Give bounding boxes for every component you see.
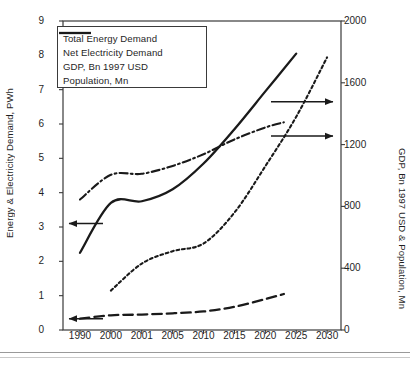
- footer-rule: [0, 352, 410, 353]
- chart-figure: Energy & Electricity Demand, PWh GDP, Bn…: [0, 0, 410, 370]
- legend-item-population: Population, Mn: [63, 73, 201, 87]
- legend-label: Net Electricity Demand: [63, 47, 163, 58]
- legend-item-net-electricity-demand: Net Electricity Demand: [63, 45, 201, 59]
- legend-label: Population, Mn: [63, 75, 128, 86]
- legend-key-long-dash-icon: [58, 27, 92, 39]
- series-line-net-electricity-demand: [80, 122, 284, 199]
- legend-label: GDP, Bn 1997 USD: [63, 61, 148, 72]
- legend-item-gdp: GDP, Bn 1997 USD: [63, 59, 201, 73]
- chart-legend: Total Energy Demand Net Electricity Dema…: [57, 26, 207, 88]
- footer-rule-secondary: [0, 357, 410, 358]
- series-line-population: [80, 294, 284, 319]
